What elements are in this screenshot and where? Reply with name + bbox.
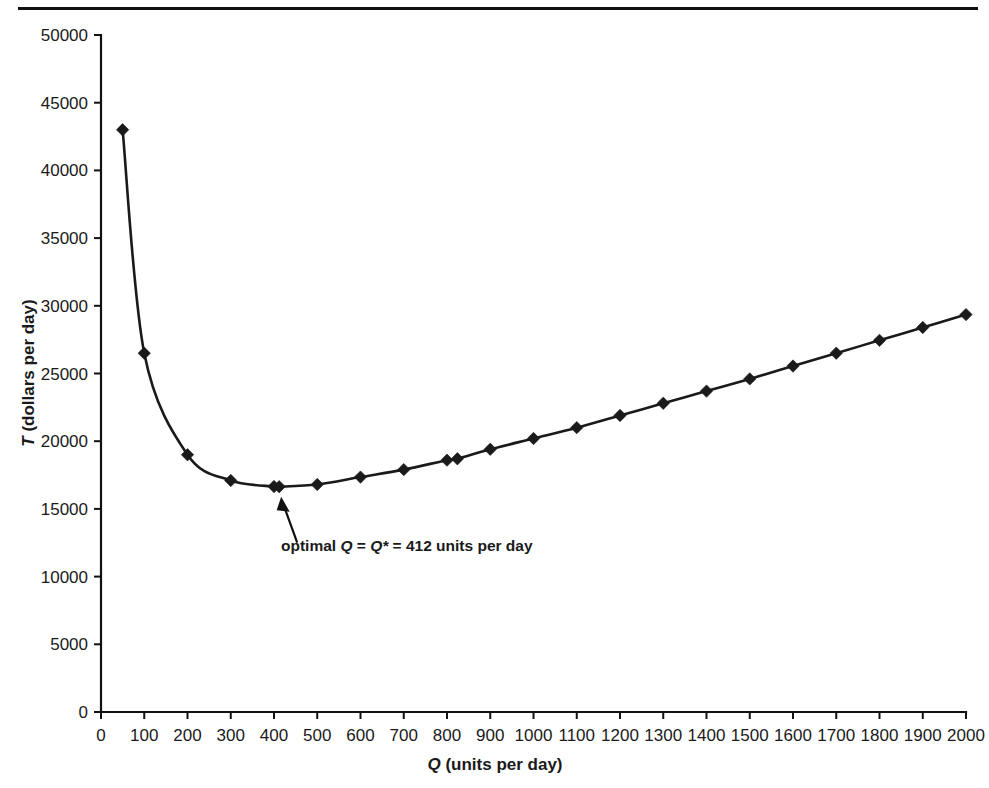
series-line-total-cost bbox=[123, 130, 966, 487]
x-tick-labels: 0100200300400500600700800900100011001200… bbox=[96, 726, 985, 745]
x-tick-label: 1100 bbox=[558, 726, 595, 745]
y-tick-label: 50000 bbox=[41, 26, 88, 45]
data-point-marker bbox=[484, 443, 496, 455]
data-point-marker bbox=[354, 471, 366, 483]
data-point-marker bbox=[225, 474, 237, 486]
x-tick-label: 600 bbox=[346, 726, 374, 745]
x-tick-label: 0 bbox=[96, 726, 105, 745]
ticks-group bbox=[94, 35, 966, 719]
x-tick-label: 100 bbox=[130, 726, 158, 745]
data-point-marker bbox=[700, 385, 712, 397]
x-tick-label: 1500 bbox=[731, 726, 769, 745]
data-point-markers bbox=[116, 124, 972, 493]
x-tick-label: 2000 bbox=[947, 726, 985, 745]
data-point-marker bbox=[138, 347, 150, 359]
page-rule-divider bbox=[18, 7, 978, 10]
annotation-arrow-head bbox=[277, 497, 290, 512]
data-point-marker bbox=[311, 478, 323, 490]
x-tick-label: 400 bbox=[260, 726, 288, 745]
y-tick-label: 40000 bbox=[41, 161, 88, 180]
y-tick-label: 0 bbox=[79, 703, 88, 722]
annotation-group: optimal Q = Q* = 412 units per day bbox=[277, 497, 533, 554]
data-point-marker bbox=[873, 334, 885, 346]
y-tick-label: 45000 bbox=[41, 94, 88, 113]
x-tick-label: 1600 bbox=[774, 726, 812, 745]
chart-figure: 0100200300400500600700800900100011001200… bbox=[0, 0, 989, 788]
x-axis-title: Q (units per day) bbox=[427, 755, 562, 774]
axes-group bbox=[101, 35, 966, 712]
data-point-marker bbox=[744, 373, 756, 385]
data-point-marker bbox=[451, 453, 463, 465]
x-tick-label: 1200 bbox=[601, 726, 639, 745]
data-point-marker bbox=[830, 347, 842, 359]
y-tick-label: 20000 bbox=[41, 432, 88, 451]
x-tick-label: 200 bbox=[173, 726, 201, 745]
x-tick-label: 1700 bbox=[817, 726, 855, 745]
data-point-marker bbox=[960, 308, 972, 320]
y-tick-label: 25000 bbox=[41, 365, 88, 384]
series-group bbox=[123, 130, 966, 487]
optimal-q-annotation-label: optimal Q = Q* = 412 units per day bbox=[281, 537, 533, 554]
x-tick-label: 1400 bbox=[688, 726, 726, 745]
data-point-marker bbox=[441, 454, 453, 466]
y-tick-label: 35000 bbox=[41, 229, 88, 248]
data-point-marker bbox=[571, 421, 583, 433]
cost-vs-quantity-line-chart: 0100200300400500600700800900100011001200… bbox=[0, 0, 989, 788]
x-tick-label: 500 bbox=[303, 726, 331, 745]
x-tick-label: 1000 bbox=[515, 726, 553, 745]
y-tick-label: 15000 bbox=[41, 500, 88, 519]
x-tick-label: 700 bbox=[390, 726, 418, 745]
data-point-marker bbox=[787, 360, 799, 372]
data-point-marker bbox=[614, 409, 626, 421]
data-point-marker bbox=[657, 397, 669, 409]
x-tick-label: 900 bbox=[476, 726, 504, 745]
x-tick-label: 800 bbox=[433, 726, 461, 745]
x-tick-label: 300 bbox=[217, 726, 245, 745]
y-tick-label: 10000 bbox=[41, 568, 88, 587]
y-tick-labels: 0500010000150002000025000300003500040000… bbox=[41, 26, 88, 722]
y-axis-title: T (dollars per day) bbox=[19, 299, 38, 446]
x-tick-label: 1900 bbox=[904, 726, 942, 745]
x-tick-label: 1800 bbox=[861, 726, 899, 745]
y-tick-label: 5000 bbox=[50, 635, 88, 654]
data-point-marker bbox=[527, 432, 539, 444]
data-point-marker bbox=[116, 124, 128, 136]
data-point-marker bbox=[398, 463, 410, 475]
y-tick-label: 30000 bbox=[41, 297, 88, 316]
data-point-marker bbox=[917, 321, 929, 333]
x-tick-label: 1300 bbox=[644, 726, 682, 745]
